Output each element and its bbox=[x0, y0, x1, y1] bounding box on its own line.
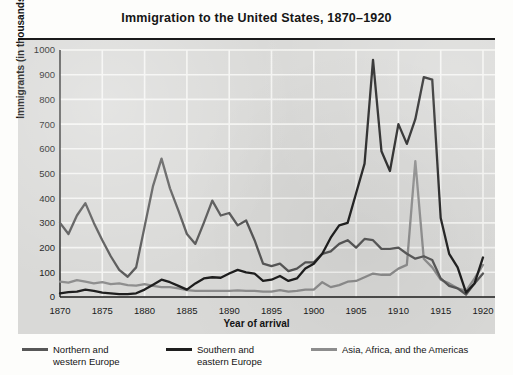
legend-item-label: Southern and eastern Europe bbox=[197, 344, 262, 367]
legend-label-line2: western Europe bbox=[53, 356, 120, 368]
x-axis-tick-label: 1910 bbox=[388, 305, 409, 316]
x-axis-tick-label: 1905 bbox=[346, 305, 367, 316]
y-axis-tick-label: 600 bbox=[39, 143, 55, 154]
y-axis-tick-label: 800 bbox=[39, 94, 55, 105]
x-axis-tick-label: 1890 bbox=[219, 305, 240, 316]
y-axis-tick-label: 300 bbox=[39, 217, 55, 228]
y-axis-tick-label: 500 bbox=[39, 168, 55, 179]
legend-item-label: Northern and western Europe bbox=[53, 344, 120, 367]
page-title: Immigration to the United States, 1870–1… bbox=[0, 11, 513, 25]
x-axis-label: Year of arrival bbox=[18, 318, 495, 329]
y-axis-tick-label: 100 bbox=[39, 267, 55, 278]
x-axis-tick-label: 1885 bbox=[176, 305, 197, 316]
chart-page: Immigration to the United States, 1870–1… bbox=[0, 0, 513, 375]
legend-label-line1: Northern and bbox=[53, 344, 120, 356]
x-axis-tick-label: 1880 bbox=[134, 305, 155, 316]
legend-swatch-icon bbox=[22, 348, 48, 352]
y-axis-tick-label: 700 bbox=[39, 119, 55, 130]
x-axis-tick-label: 1900 bbox=[303, 305, 324, 316]
legend-label-line1: Southern and bbox=[197, 344, 262, 356]
y-axis-tick-label: 1000 bbox=[34, 44, 55, 55]
legend-item-southern-eastern-europe[interactable]: Southern and eastern Europe bbox=[166, 344, 262, 367]
x-axis-tick-label: 1895 bbox=[261, 305, 282, 316]
x-axis-tick-label: 1875 bbox=[92, 305, 113, 316]
y-axis-tick-label: 900 bbox=[39, 69, 55, 80]
y-axis-tick-label: 400 bbox=[39, 193, 55, 204]
chart-figure: Immigrants (in thousands) 01002003004005… bbox=[18, 38, 495, 334]
legend-item-northern-western-europe[interactable]: Northern and western Europe bbox=[22, 344, 120, 367]
legend-swatch-icon bbox=[311, 348, 337, 352]
x-axis-tick-label: 1920 bbox=[472, 305, 493, 316]
legend-label-line2: eastern Europe bbox=[197, 356, 262, 368]
x-axis-tick-label: 1915 bbox=[430, 305, 451, 316]
y-axis-tick-label: 200 bbox=[39, 242, 55, 253]
legend-swatch-icon bbox=[166, 348, 192, 352]
line-chart-plot: 0100200300400500600700800900100018701875… bbox=[18, 40, 495, 334]
x-axis-tick-label: 1870 bbox=[49, 305, 70, 316]
legend-item-label: Asia, Africa, and the Americas bbox=[342, 344, 468, 356]
chart-legend: Northern and western Europe Southern and… bbox=[18, 344, 508, 374]
legend-item-asia-africa-americas[interactable]: Asia, Africa, and the Americas bbox=[311, 344, 468, 356]
legend-label-line1: Asia, Africa, and the Americas bbox=[342, 344, 468, 356]
y-axis-tick-label: 0 bbox=[50, 291, 55, 302]
